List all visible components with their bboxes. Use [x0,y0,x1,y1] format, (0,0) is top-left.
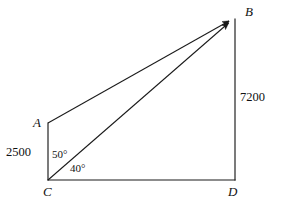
angle-label-ACB: 50° [52,149,67,160]
vertex-label-A: A [33,116,41,129]
vertex-label-D: D [228,185,237,198]
segment-CB-ray [48,23,229,180]
segment-AB-ray [48,21,229,123]
measurement-label-BD: 7200 [240,91,265,104]
vertex-label-B: B [245,5,253,18]
vertex-label-C: C [43,185,52,198]
geometry-figure: A B C D 2500 7200 50° 40° [0,0,283,204]
measurement-label-AC: 2500 [6,146,31,159]
rays-to-B [48,21,229,180]
angle-label-BCD: 40° [70,163,85,174]
